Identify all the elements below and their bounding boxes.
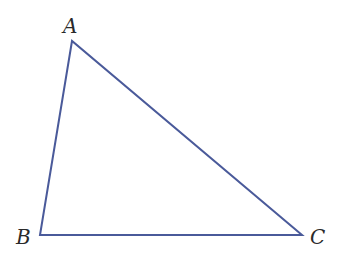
triangle-abc [40,41,302,235]
vertex-label-a: A [61,14,77,38]
vertex-label-c: C [310,225,325,249]
triangle-diagram: A B C [0,0,343,258]
vertex-label-b: B [15,225,31,249]
